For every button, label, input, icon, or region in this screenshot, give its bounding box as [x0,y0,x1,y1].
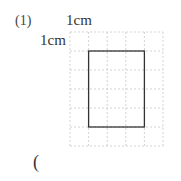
rectangle-shape [89,51,145,127]
grid-figure [0,0,181,181]
dashed-grid [70,32,163,146]
answer-paren: ( [33,153,39,171]
